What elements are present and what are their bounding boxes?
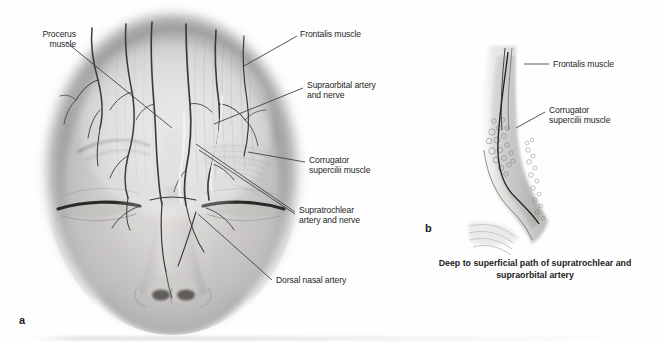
label-supratrochlear-artery-and-nerve: Supratrochlear artery and nerve [299,205,360,226]
label-supraorbital-artery-and-nerve: Supraorbital artery and nerve [307,80,376,101]
bottom-edge-artifact [30,336,630,341]
label-corrugator-supercilii-muscle: Corrugator supercilii muscle [309,155,370,176]
anatomy-figure: Procerus muscle Frontalis muscle Supraor… [0,0,663,342]
panel-marker-b: b [425,222,432,234]
panel-b-caption: Deep to superficial path of supratrochle… [415,258,655,281]
panel-marker-a: a [19,314,25,326]
leader-corrugator-b [516,112,545,128]
label-dorsal-nasal-artery: Dorsal nasal artery [276,275,346,285]
label-frontalis-muscle: Frontalis muscle [300,29,361,39]
forehead-window-overlay [78,30,274,222]
leader-frontalis [244,36,297,66]
leader-lines-b [516,64,549,128]
label-corrugator-supercilii-muscle-b: Corrugator supercilii muscle [549,105,610,126]
label-procerus-muscle: Procerus muscle [14,29,76,50]
label-frontalis-muscle-b: Frontalis muscle [553,59,614,69]
